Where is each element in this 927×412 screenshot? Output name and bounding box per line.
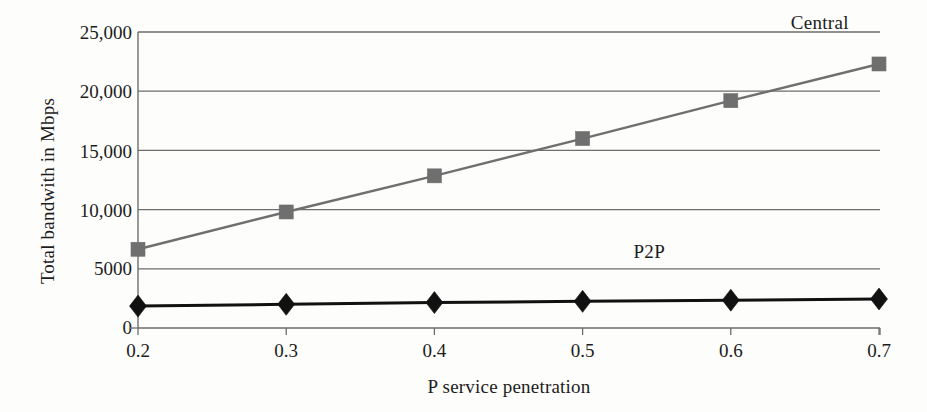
data-point-central-0.5 <box>576 132 590 146</box>
series-label-central: Central <box>791 12 849 34</box>
x-tick-label-0.5: 0.5 <box>548 340 618 362</box>
data-point-p2p-0.2 <box>130 295 147 317</box>
data-point-p2p-0.6 <box>722 289 739 311</box>
data-series-layer <box>130 57 888 317</box>
x-tick-label-0.6: 0.6 <box>696 340 766 362</box>
data-point-p2p-0.5 <box>574 290 591 312</box>
x-tick-label-0.2: 0.2 <box>103 340 173 362</box>
data-point-central-0.2 <box>131 242 145 256</box>
data-point-central-0.4 <box>427 169 441 183</box>
x-tick-label-0.3: 0.3 <box>251 340 321 362</box>
x-axis-ticks <box>138 328 879 335</box>
grid-lines <box>138 32 880 269</box>
series-central <box>131 57 886 256</box>
data-point-central-0.6 <box>724 94 738 108</box>
series-label-p2p: P2P <box>634 241 666 263</box>
x-axis-title: P service penetration <box>138 376 880 398</box>
chart-figure: Total bandwith in Mbps 0 5000 10,000 15,… <box>0 0 927 412</box>
data-point-p2p-0.3 <box>278 293 295 315</box>
axis-lines <box>130 32 880 335</box>
data-point-p2p-0.7 <box>871 288 888 310</box>
series-line-p2p <box>138 299 879 306</box>
x-tick-label-0.4: 0.4 <box>399 340 469 362</box>
data-point-central-0.7 <box>872 57 886 71</box>
x-tick-label-0.7: 0.7 <box>844 340 914 362</box>
series-p2p <box>130 288 888 317</box>
data-point-central-0.3 <box>279 205 293 219</box>
data-point-p2p-0.4 <box>426 292 443 314</box>
